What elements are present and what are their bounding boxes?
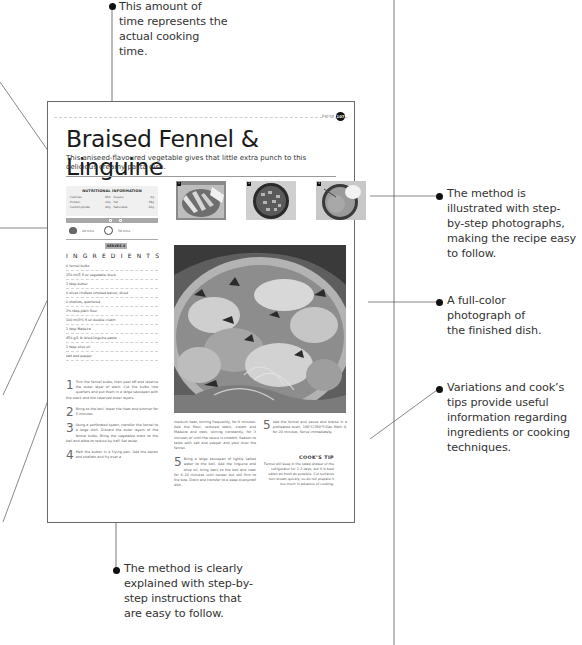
nutrition-row: Carbohydrate40g	[70, 205, 111, 210]
step-text: Using a perforated spoon, transfer the f…	[66, 423, 158, 443]
ingredient-item: 2 tbsp butter	[66, 280, 158, 289]
step-text: Bring a large saucepan of lightly salted…	[174, 457, 256, 487]
ingredient-item: 150 ml/5 fl oz vegetable stock	[66, 271, 158, 280]
method-step: 5Add the fennel and sauce and braise in …	[263, 420, 347, 436]
ingredient-item: 1 tbsp olive oil	[66, 343, 158, 352]
method-step: 1Trim the fennel bulbs, then peel off an…	[66, 380, 158, 401]
ingredient-item: 1 tbsp Madeira	[66, 325, 158, 334]
method-step: 5Bring a large saucepan of lightly salte…	[174, 457, 256, 488]
callout-bullet	[436, 193, 443, 200]
method-step-continued: medium heat, stirring frequently, for 4 …	[174, 420, 256, 451]
nutrition-grid: Calories650 Sugars4g Protein14g Fat39g C…	[66, 193, 158, 210]
step-photo-2: 4	[246, 181, 296, 220]
step-photo-1: 1	[176, 181, 226, 220]
callout-bullet	[436, 299, 443, 306]
method-step: 4Melt the butter in a frying pan. Add th…	[66, 450, 158, 460]
cooks-tip-text: Fennel will keep in the salad drawer of …	[264, 462, 334, 487]
step-photo-badge: 4	[247, 182, 251, 186]
ingredients-list: 6 fennel bulbs 150 ml/5 fl oz vegetable …	[66, 262, 158, 361]
ingredients-heading: INGREDIENTS	[66, 252, 158, 259]
nutrition-label: Saturates	[114, 205, 128, 210]
ingredient-item: 6 shallots, quartered	[66, 298, 158, 307]
step-text: Trim the fennel bulbs, then peel off and…	[66, 380, 158, 400]
step-text: Melt the butter in a frying pan. Add the…	[76, 450, 158, 459]
clock-icon	[104, 226, 113, 235]
prep-time: 20 mins	[82, 229, 94, 233]
prep-time-icon	[69, 227, 77, 234]
step-text: medium heat, stirring frequently, for 4 …	[174, 420, 256, 450]
page-header-rule	[54, 117, 348, 118]
title-divider	[66, 176, 336, 177]
ingredient-item: 450 g/1 lb dried linguine pasta	[66, 334, 158, 343]
difficulty-icon	[119, 219, 122, 222]
step-number: 5	[174, 457, 182, 468]
callout-bullet	[109, 3, 116, 10]
recipe-page: Baking 107 Braised Fennel & Linguine Thi…	[47, 101, 355, 523]
nutrition-panel: NUTRITIONAL INFORMATION Calories650 Suga…	[66, 186, 158, 216]
ingredient-item: 100 ml/3½ fl oz double cream	[66, 316, 158, 325]
cooks-tip-heading: COOK’S TIP	[299, 455, 334, 460]
step-text: Add the fennel and sauce and braise in a…	[273, 420, 347, 434]
nutrition-row: Saturates22g	[114, 205, 155, 210]
step-number: 5	[263, 420, 271, 431]
serves-badge: SERVES 4	[105, 243, 127, 249]
callout-variations-tips: Variations and cook’s tips provide usefu…	[447, 380, 577, 455]
sauce-pan-image	[316, 181, 366, 220]
callout-bullet	[113, 567, 120, 574]
nutrition-label: Carbohydrate	[70, 205, 90, 210]
method-column-2: medium heat, stirring frequently, for 4 …	[174, 420, 256, 494]
step-photo-badge: 1	[177, 182, 181, 186]
recipe-title: Braised Fennel & Linguine	[66, 125, 354, 181]
callout-full-color-photo: A full-color photograph of the finished …	[447, 293, 542, 338]
ingredient-item: 6 fennel bulbs	[66, 262, 158, 271]
nutrition-value: 22g	[148, 205, 154, 210]
page-number-badge: 107	[336, 112, 345, 121]
timing-row: 20 mins 50 mins	[66, 225, 158, 238]
callout-bullet	[436, 386, 443, 393]
callout-step-photos: The method is illustrated with step-by-s…	[447, 186, 577, 261]
difficulty-bar	[66, 218, 158, 223]
method-step: 3Using a perforated spoon, transfer the …	[66, 423, 158, 444]
frying-bacon-image	[246, 181, 296, 220]
section-label: Baking	[322, 114, 334, 118]
method-column-1: 1Trim the fennel bulbs, then peel off an…	[66, 380, 158, 466]
step-photo-3: 4	[316, 181, 366, 220]
step-number: 4	[66, 450, 74, 461]
method-column-3: 5Add the fennel and sauce and braise in …	[263, 420, 347, 442]
ingredient-item: 6 slices rindless smoked bacon, diced	[66, 289, 158, 298]
step-number: 1	[66, 380, 74, 391]
ingredient-item: salt and pepper	[66, 352, 158, 361]
step-number: 2	[66, 407, 74, 418]
pan-fennel-image	[176, 181, 226, 220]
method-step: 2Bring to the boil, lower the heat and s…	[66, 407, 158, 417]
ingredient-item: 2½ tbsp plain flour	[66, 307, 158, 316]
difficulty-icon	[109, 219, 112, 222]
step-text: Bring to the boil, lower the heat and si…	[76, 407, 158, 416]
recipe-subtitle: This aniseed-flavoured vegetable gives t…	[66, 154, 316, 171]
finished-dish-image	[174, 245, 346, 413]
step-number: 3	[66, 423, 74, 434]
callout-method-instructions: The method is clearly explained with ste…	[124, 561, 254, 621]
timing-divider	[66, 239, 158, 240]
step-photo-badge: 4	[317, 182, 321, 186]
callout-cooking-time: This amount of time represents the actua…	[119, 0, 229, 59]
nutrition-value: 40g	[105, 205, 111, 210]
cook-time: 50 mins	[118, 229, 130, 233]
finished-dish-photo	[174, 245, 346, 413]
